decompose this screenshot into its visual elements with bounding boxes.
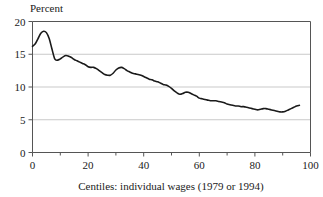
- series-line: [33, 31, 300, 112]
- x-tick-label: 100: [302, 159, 319, 171]
- x-tick-label: 20: [83, 159, 95, 171]
- y-tick-label: 5: [20, 114, 26, 126]
- x-tick-label: 60: [194, 159, 206, 171]
- x-tick-label: 80: [249, 159, 261, 171]
- x-axis-title: Centiles: individual wages (1979 or 1994…: [78, 180, 264, 193]
- x-tick-label: 0: [30, 159, 36, 171]
- data-series: [33, 31, 300, 112]
- y-tick-label: 15: [15, 48, 27, 60]
- line-chart-plot: 020406080100 05101520 Centiles: individu…: [0, 0, 323, 197]
- y-tick-label: 10: [15, 81, 27, 93]
- x-tick-label: 40: [138, 159, 150, 171]
- x-axis-ticks: 020406080100: [30, 153, 320, 171]
- y-tick-label: 0: [20, 147, 26, 159]
- y-tick-label: 20: [15, 16, 27, 28]
- y-axis-ticks: 05101520: [15, 16, 33, 159]
- chart-figure: Percent 020406080100 05101520 Centiles: …: [0, 0, 323, 197]
